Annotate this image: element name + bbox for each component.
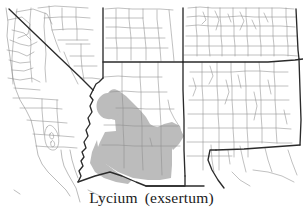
caption-epithet: (exsertum) bbox=[145, 189, 214, 206]
distribution-map-figure: Lycium(exsertum) bbox=[0, 0, 303, 213]
map-background bbox=[0, 0, 303, 213]
map-graphic bbox=[0, 0, 303, 213]
caption-genus: Lycium bbox=[89, 189, 138, 206]
figure-caption: Lycium(exsertum) bbox=[0, 189, 303, 207]
